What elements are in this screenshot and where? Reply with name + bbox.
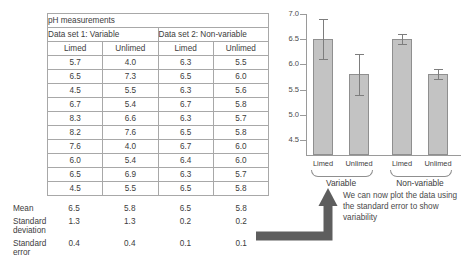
stats-value: 6.5: [46, 204, 102, 213]
y-axis-tick-label: 4.5: [280, 135, 299, 144]
column-header-limed-2: Limed: [158, 42, 213, 56]
cell: 6.7: [48, 98, 103, 112]
cell: 6.0: [213, 154, 268, 168]
dataset-header-2: Data set 2: Non-variable: [158, 28, 269, 42]
error-bar-cap: [398, 34, 407, 35]
column-header-row: Limed Unlimed Limed Unlimed: [48, 42, 269, 56]
dataset-header-row: Data set 1: Variable Data set 2: Non-var…: [48, 28, 269, 42]
stats-value: 0.2: [158, 217, 214, 226]
table-row: 6.0 5.4 6.4 6.0: [48, 154, 269, 168]
y-axis-tick-label: 5.5: [280, 85, 299, 94]
stats-value: 0.1: [158, 239, 214, 248]
y-axis-tick: [300, 39, 306, 40]
cell: 6.5: [48, 70, 103, 84]
cell: 6.3: [158, 112, 213, 126]
stats-value: 0.4: [102, 239, 158, 248]
cell: 6.0: [213, 70, 268, 84]
cell: 5.7: [213, 112, 268, 126]
cell: 4.5: [48, 182, 103, 196]
cell: 5.5: [103, 182, 158, 196]
cell: 6.0: [213, 140, 268, 154]
error-bar-cap: [319, 19, 328, 20]
cell: 6.5: [158, 70, 213, 84]
error-bar: [359, 54, 360, 94]
x-axis-line: [306, 155, 461, 156]
table-title-row: pH measurements: [48, 14, 269, 28]
table-row: 4.5 5.5 6.5 5.8: [48, 182, 269, 196]
cell: 6.7: [158, 98, 213, 112]
cell: 5.7: [213, 168, 268, 182]
annotation-caption: We can now plot the data using the stand…: [343, 190, 467, 223]
stats-label: Standard deviation: [13, 217, 46, 236]
cell: 6.9: [103, 168, 158, 182]
stats-row-mean: Mean 6.5 5.8 6.5 5.8: [13, 204, 269, 214]
cell: 4.0: [103, 56, 158, 70]
y-axis-tick-label: 6.5: [280, 34, 299, 43]
error-bar: [323, 19, 324, 59]
cell: 6.3: [158, 84, 213, 98]
cell: 5.5: [213, 56, 268, 70]
y-axis-tick: [300, 14, 306, 15]
table-row: 7.6 4.0 6.7 6.0: [48, 140, 269, 154]
elbow-arrow-icon: [256, 186, 348, 246]
error-bar: [402, 34, 403, 44]
bar: [392, 39, 412, 155]
cell: 8.2: [48, 126, 103, 140]
dataset-header-1: Data set 1: Variable: [48, 28, 159, 42]
stats-value: 1.3: [46, 217, 102, 226]
cell: 6.3: [158, 56, 213, 70]
stats-label: Standard error: [13, 239, 46, 258]
cell: 6.7: [158, 140, 213, 154]
cell: 6.5: [48, 168, 103, 182]
group-bracket: [390, 170, 452, 177]
y-axis-tick-label: 6.0: [280, 59, 299, 68]
cell: 6.3: [158, 168, 213, 182]
y-axis-tick: [300, 90, 306, 91]
error-bar-cap: [319, 59, 328, 60]
cell: 5.8: [213, 98, 268, 112]
cell: 6.0: [48, 154, 103, 168]
x-axis-tick-label: Unlimed: [416, 159, 460, 168]
cell: 5.8: [213, 126, 268, 140]
column-header-limed-1: Limed: [48, 42, 103, 56]
stats-value: 0.4: [46, 239, 102, 248]
summary-statistics: Mean 6.5 5.8 6.5 5.8 Standard deviation …: [13, 204, 269, 261]
y-axis-line: [306, 14, 307, 156]
cell: 6.4: [158, 154, 213, 168]
cell: 8.3: [48, 112, 103, 126]
table-row: 4.5 5.5 6.3 5.6: [48, 84, 269, 98]
error-bar-cap: [434, 79, 443, 80]
figure-root: pH measurements Data set 1: Variable Dat…: [0, 0, 471, 273]
group-bracket: [311, 170, 373, 177]
table-row: 5.7 4.0 6.3 5.5: [48, 56, 269, 70]
cell: 6.5: [158, 182, 213, 196]
cell: 7.6: [48, 140, 103, 154]
table-row: 6.5 6.9 6.3 5.7: [48, 168, 269, 182]
stats-label: Mean: [13, 204, 46, 214]
table-title: pH measurements: [48, 14, 269, 28]
cell: 4.0: [103, 140, 158, 154]
ph-measurements-table-wrapper: pH measurements Data set 1: Variable Dat…: [47, 13, 269, 196]
error-bar: [438, 69, 439, 79]
cell: 5.6: [213, 84, 268, 98]
cell: 5.4: [103, 98, 158, 112]
cell: 5.4: [103, 154, 158, 168]
error-bar-cap: [355, 54, 364, 55]
cell: 6.6: [103, 112, 158, 126]
table-row: 6.5 7.3 6.5 6.0: [48, 70, 269, 84]
cell: 5.5: [103, 84, 158, 98]
table-row: 6.7 5.4 6.7 5.8: [48, 98, 269, 112]
column-header-unlimed-2: Unlimed: [213, 42, 268, 56]
ph-measurements-table: pH measurements Data set 1: Variable Dat…: [47, 13, 269, 196]
group-label: Non-variable: [372, 178, 468, 188]
x-axis-tick-label: Unlimed: [337, 159, 381, 168]
y-axis-tick: [300, 115, 306, 116]
cell: 5.7: [48, 56, 103, 70]
cell: 7.6: [103, 126, 158, 140]
bar-chart: 7.06.56.05.55.04.5 LimedUnlimedLimedUnli…: [284, 8, 470, 193]
stats-value: 6.5: [158, 204, 214, 213]
stats-value: 1.3: [102, 217, 158, 226]
table-row: 8.2 7.6 6.5 5.8: [48, 126, 269, 140]
y-axis-tick-label: 5.0: [280, 110, 299, 119]
stats-row-standard-deviation: Standard deviation 1.3 1.3 0.2 0.2: [13, 217, 269, 236]
